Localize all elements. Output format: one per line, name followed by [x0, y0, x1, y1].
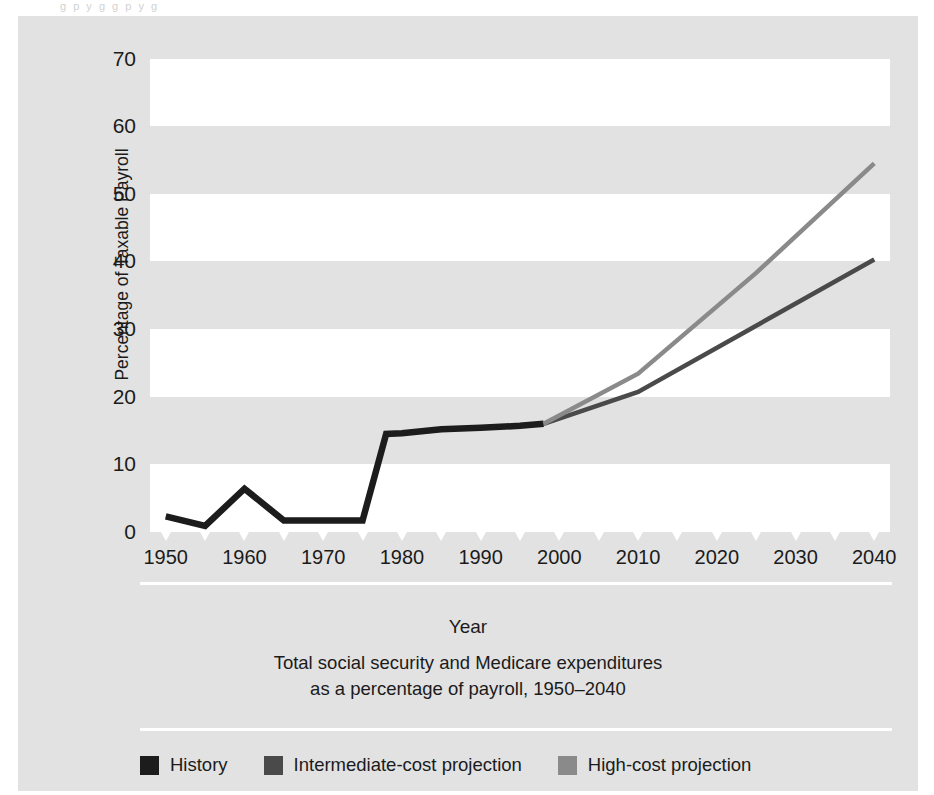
x-axis-tick-label: 1990 [458, 546, 503, 569]
x-axis-tick-mark [751, 532, 761, 541]
legend-item: History [140, 754, 228, 776]
x-axis-tick-mark [476, 532, 486, 541]
x-axis-tick-mark [161, 532, 171, 541]
legend-item: High-cost projection [558, 754, 752, 776]
legend-label: High-cost projection [588, 754, 752, 776]
x-axis-tick-mark [358, 532, 368, 541]
y-axis-tick-label: 20 [90, 385, 136, 409]
x-axis-tick-label: 2030 [773, 546, 818, 569]
figure-page: g p y g g p y g 010203040506070 Percenta… [0, 0, 934, 795]
x-axis-tick-mark [318, 532, 328, 541]
plot-area [150, 45, 890, 532]
x-axis-title: Year [18, 616, 918, 638]
x-axis-tick-mark [200, 532, 210, 541]
x-axis-tick-mark [633, 532, 643, 541]
x-axis-tick-mark [515, 532, 525, 541]
x-axis-tick-label: 2040 [852, 546, 897, 569]
x-axis-tick-mark [239, 532, 249, 541]
x-axis-tick-mark [830, 532, 840, 541]
x-axis-tick-label: 2000 [537, 546, 582, 569]
y-axis-tick-label: 60 [90, 114, 136, 138]
series-line-high-cost-projection [544, 163, 875, 423]
page-bleed-text: g p y g g p y g [0, 0, 934, 14]
y-axis-tick-label: 10 [90, 452, 136, 476]
x-axis-tick-mark [554, 532, 564, 541]
high-cost-swatch [558, 756, 577, 775]
series-line-history [166, 424, 544, 526]
legend-item: Intermediate-cost projection [264, 754, 522, 776]
x-axis-tick-mark [672, 532, 682, 541]
x-axis-tick-mark [436, 532, 446, 541]
x-axis-tick-label: 1980 [380, 546, 425, 569]
x-axis-tick-mark [869, 532, 879, 541]
chart-legend: HistoryIntermediate-cost projectionHigh-… [140, 754, 787, 776]
legend-label: History [170, 754, 228, 776]
x-axis-tick-mark [791, 532, 801, 541]
x-axis-tick-mark [279, 532, 289, 541]
figure-panel: 010203040506070 Percentage of Taxable Pa… [18, 16, 918, 791]
x-axis-tick-label: 1960 [222, 546, 267, 569]
data-lines [150, 45, 890, 532]
x-axis-tick-mark [397, 532, 407, 541]
y-axis-tick-label: 70 [90, 47, 136, 71]
x-axis-tick-mark [712, 532, 722, 541]
intermediate-swatch [264, 756, 283, 775]
caption-line-2: as a percentage of payroll, 1950–2040 [18, 676, 918, 702]
figure-caption: Total social security and Medicare expen… [18, 650, 918, 702]
y-axis-tick-label: 0 [90, 520, 136, 544]
x-axis-tick-mark [594, 532, 604, 541]
x-axis-tick-label: 2020 [695, 546, 740, 569]
x-axis-tick-label: 1970 [301, 546, 346, 569]
divider-rule-upper [140, 582, 892, 585]
legend-label: Intermediate-cost projection [294, 754, 522, 776]
x-axis-tick-label: 1950 [143, 546, 188, 569]
y-axis-title: Percentage of Taxable Payroll [112, 148, 133, 380]
history-swatch [140, 756, 159, 775]
x-axis-tick-label: 2010 [616, 546, 661, 569]
caption-line-1: Total social security and Medicare expen… [18, 650, 918, 676]
divider-rule-lower [140, 728, 892, 731]
